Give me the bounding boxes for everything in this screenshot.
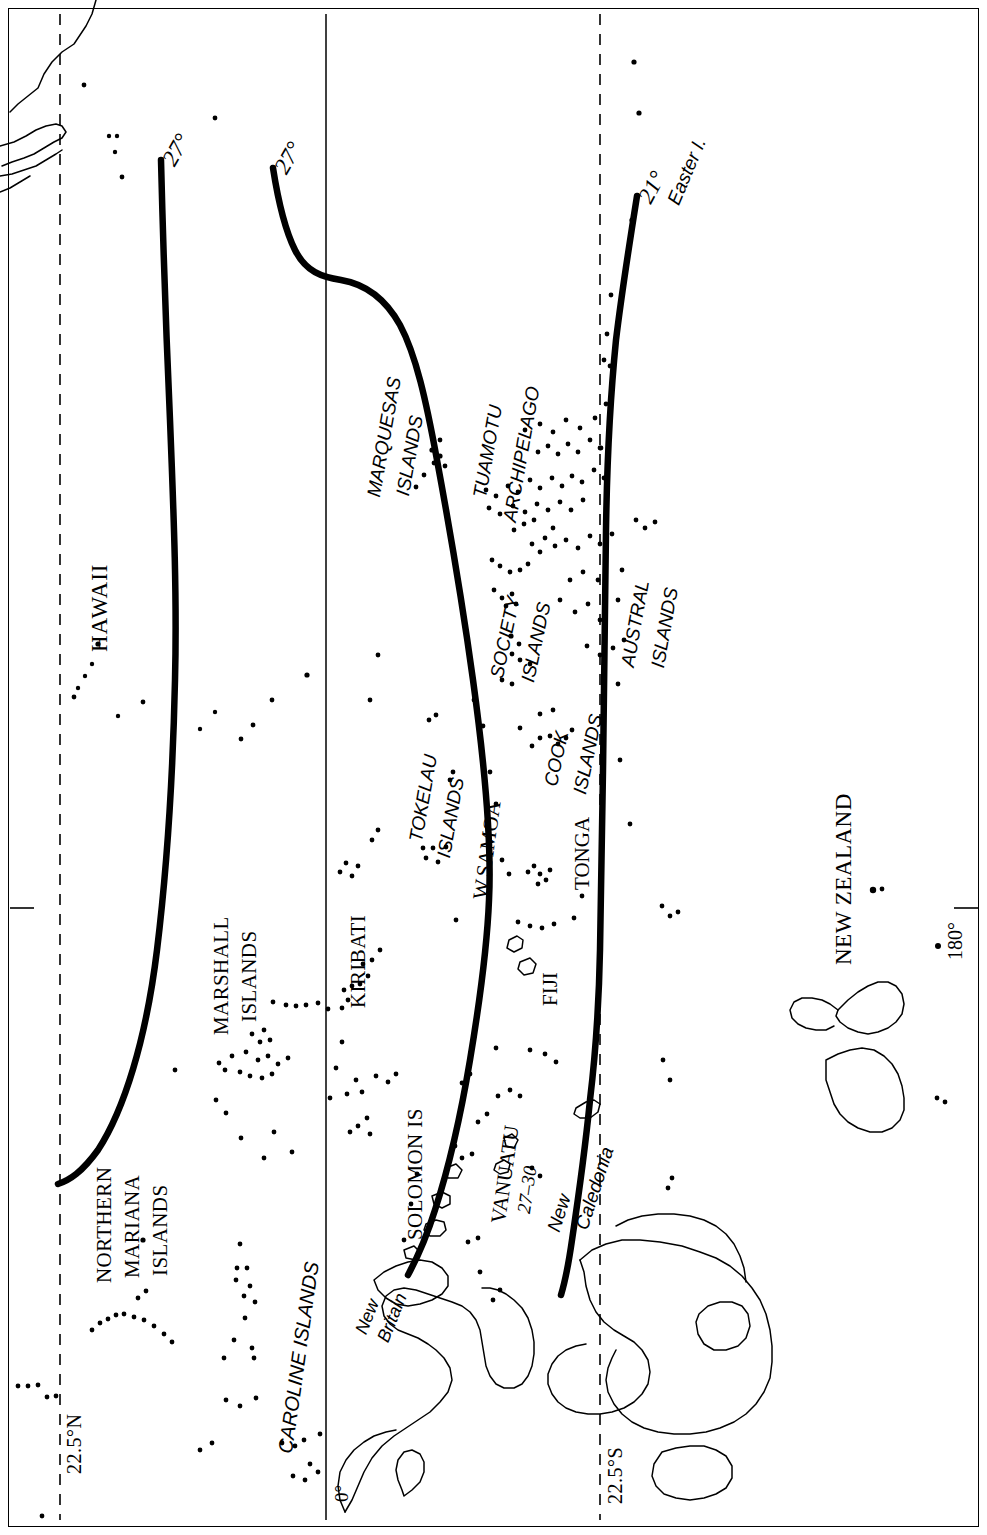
island-dot <box>242 1294 247 1299</box>
island-dot <box>476 1120 481 1125</box>
island-dot <box>550 476 555 481</box>
island-dot <box>422 473 427 478</box>
island-dot <box>570 474 575 479</box>
island-dot <box>572 916 577 921</box>
island-dot <box>551 708 556 713</box>
coast-australia <box>580 1240 772 1434</box>
island-dot <box>485 1112 490 1117</box>
island-dot <box>540 926 545 931</box>
island-dot <box>356 864 361 869</box>
island-dot <box>356 1124 361 1129</box>
island-dot <box>251 723 256 728</box>
island-dot <box>548 868 553 873</box>
island-dot <box>340 1006 345 1011</box>
island-dot <box>238 1070 243 1075</box>
island-dot <box>588 438 593 443</box>
island-dot <box>365 1116 370 1121</box>
island-dot <box>592 468 597 473</box>
island-dot <box>248 1284 253 1289</box>
island-dot <box>436 860 441 865</box>
island-dot <box>286 1056 291 1061</box>
isotherm-27-central-curve <box>273 168 490 1275</box>
island-dot <box>609 293 614 298</box>
island-dot <box>498 564 503 569</box>
island-dot <box>569 508 574 513</box>
island-dot <box>566 442 571 447</box>
island-dot <box>16 1384 21 1389</box>
island-dot <box>476 1236 481 1241</box>
coast-australia-north <box>616 1214 746 1282</box>
island-dot <box>250 1032 255 1037</box>
island-dot <box>141 700 146 705</box>
island-dot <box>478 1270 483 1275</box>
island-dot <box>354 1078 359 1083</box>
island-dot <box>370 958 375 963</box>
island-dot <box>676 910 681 915</box>
island-dot <box>517 642 522 647</box>
label-northern-mariana-line2: MARIANA <box>122 1175 143 1278</box>
island-dot <box>560 484 565 489</box>
island-dot <box>198 727 202 731</box>
island-dot <box>340 1040 345 1045</box>
island-dot <box>248 1074 253 1079</box>
island-dot <box>268 1038 273 1043</box>
island-dot <box>620 568 625 573</box>
label-marshall-line2: ISLANDS <box>239 931 260 1022</box>
island-dot <box>82 83 87 88</box>
island-dot <box>470 1152 475 1157</box>
island-dot <box>512 528 517 533</box>
island-dot <box>451 770 456 775</box>
island-dot <box>72 695 77 700</box>
island-dot <box>245 1266 250 1271</box>
island-dot <box>368 1132 373 1137</box>
isotherm-layer <box>58 160 637 1295</box>
island-dot <box>90 1328 95 1333</box>
label-lat-22-5-s: 22.5°S <box>605 1447 625 1504</box>
island-dot <box>660 904 665 909</box>
coast-tasmania <box>696 1302 750 1350</box>
coast-baja-peninsula <box>0 124 66 166</box>
island-dot <box>576 450 581 455</box>
island-dot <box>223 1068 228 1073</box>
coastline-layer <box>0 0 904 1512</box>
island-dot <box>581 498 586 503</box>
island-dot <box>98 1321 103 1326</box>
island-dot <box>880 887 885 892</box>
island-dot <box>588 534 593 539</box>
island-dot <box>243 1316 248 1321</box>
map-figure: 22.5°N 0° 22.5°S 180° 27° 27° 21° Easter… <box>0 0 987 1535</box>
coast-americas-lower <box>0 176 30 192</box>
island-dot <box>238 1404 243 1409</box>
island-dot <box>122 1312 127 1317</box>
island-dot <box>345 1092 350 1097</box>
coast-americas <box>10 0 96 112</box>
island-dot <box>500 858 505 863</box>
island-dot <box>576 546 581 551</box>
coast-nz-north-island-b <box>790 998 838 1030</box>
island-dot <box>538 550 543 555</box>
island-dot <box>302 1438 307 1443</box>
island-dot <box>262 1028 267 1033</box>
island-dot <box>260 1076 265 1081</box>
island-dot <box>173 1068 178 1073</box>
island-dot <box>518 726 523 731</box>
island-dot <box>258 1040 263 1045</box>
island-dot <box>304 1003 309 1008</box>
island-dot <box>935 943 941 949</box>
island-dot <box>374 1074 379 1079</box>
island-dot <box>581 570 586 575</box>
label-lat-0: 0° <box>332 1485 351 1502</box>
island-dot <box>618 758 623 763</box>
coast-nz-north-island <box>836 982 904 1034</box>
island-dot <box>523 510 528 515</box>
island-dot <box>238 1242 243 1247</box>
island-dot <box>518 1094 523 1099</box>
island-dot <box>213 710 217 714</box>
island-dot <box>536 882 541 887</box>
island-dot <box>570 728 575 733</box>
island-dot <box>516 920 521 925</box>
island-dot <box>538 872 543 877</box>
island-dot <box>568 578 573 583</box>
island-dot <box>543 1052 548 1057</box>
island-dot <box>580 480 585 485</box>
